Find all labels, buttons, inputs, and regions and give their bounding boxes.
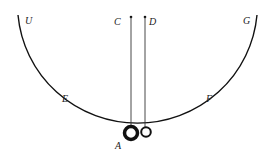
label-g: G <box>243 15 250 26</box>
small-ball <box>141 127 151 137</box>
semicircular-track <box>18 15 257 123</box>
label-a: A <box>114 140 122 151</box>
label-u: U <box>25 15 33 26</box>
label-f: F <box>205 93 213 104</box>
pendulum-diagram: U C D G E F A <box>0 0 275 155</box>
label-c: C <box>114 16 121 27</box>
label-d: D <box>148 16 157 27</box>
label-e: E <box>61 93 68 104</box>
large-ball <box>125 127 138 140</box>
